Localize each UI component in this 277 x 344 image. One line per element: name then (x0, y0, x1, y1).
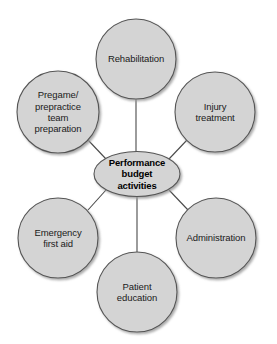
hub-shape-group (94, 152, 180, 197)
node-circle-emergency-first-aid[interactable] (18, 198, 98, 278)
node-circle-pregame-preparation[interactable] (17, 71, 99, 153)
diagram-graphics (0, 0, 277, 344)
node-circle-administration[interactable] (176, 198, 256, 278)
node-circle-injury-treatment[interactable] (175, 72, 255, 152)
connector-hub-to-emergency-first-aid (88, 190, 106, 210)
hub-ellipse[interactable] (94, 152, 180, 197)
connector-hub-to-administration (169, 190, 188, 210)
node-circle-patient-education[interactable] (97, 252, 177, 332)
connector-hub-to-injury-treatment (169, 140, 187, 159)
node-circle-rehabilitation[interactable] (96, 19, 176, 99)
diagram-canvas: Rehabilitation Pregame/ prepractice team… (0, 0, 277, 344)
connector-hub-to-pregame-preparation (88, 140, 106, 159)
